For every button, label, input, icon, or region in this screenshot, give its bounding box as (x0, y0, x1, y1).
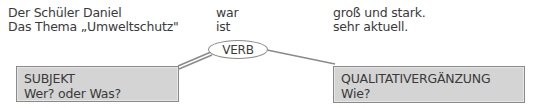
complement-box-question: Wie? (341, 87, 524, 102)
subject-box: SUBJEKT Wer? oder Was? (16, 66, 179, 102)
subject-connector-line-b (179, 55, 212, 69)
verb-label: VERB (222, 43, 254, 57)
subject-box-title: SUBJEKT (24, 72, 178, 87)
complement-box-title: QUALITATIVERGÄNZUNG (341, 72, 524, 87)
verb-oval: VERB (208, 40, 268, 59)
subject-box-question: Wer? oder Was? (24, 87, 178, 102)
subject-connector-line-a (178, 52, 211, 66)
complement-connector-line (267, 50, 335, 64)
complement-box: QUALITATIVERGÄNZUNG Wie? (333, 66, 525, 103)
